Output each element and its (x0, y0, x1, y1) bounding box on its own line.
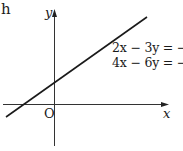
axes-and-line (0, 0, 183, 151)
y-axis-arrow-icon (52, 9, 57, 17)
coordinate-diagram: h y x O 2x − 3y = −1 4x − 6y = −2 (0, 0, 183, 151)
equation-1: 2x − 3y = −1 (112, 42, 183, 55)
corner-label: h (1, 2, 11, 17)
equation-2: 4x − 6y = −2 (112, 57, 183, 70)
y-axis-label: y (45, 6, 52, 19)
origin-label: O (44, 107, 55, 120)
x-axis-label: x (163, 107, 170, 120)
